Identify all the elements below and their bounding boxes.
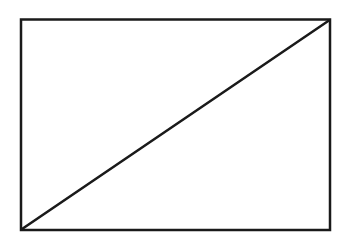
diagram-canvas [0, 0, 347, 248]
diagonal-line [22, 21, 329, 230]
